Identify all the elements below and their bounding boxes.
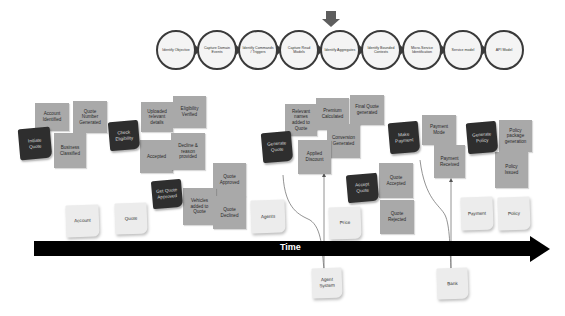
command-note[interactable]: Check Eligibility (108, 120, 140, 152)
event-note[interactable]: Quote Approved (213, 163, 246, 196)
event-note[interactable]: Payment Mode (422, 115, 456, 145)
aggregate-note[interactable]: Payment (460, 196, 493, 230)
timeline-arrow-icon (530, 236, 550, 262)
event-note[interactable]: Eligibility Verified (173, 96, 206, 128)
command-note[interactable]: Accept Quote (346, 173, 379, 204)
event-note[interactable]: Quote Accepted (379, 163, 413, 198)
command-note[interactable]: Make Payment (388, 121, 421, 154)
external-system-note[interactable]: Bank (436, 267, 468, 299)
event-note[interactable]: Policy Issued (495, 152, 528, 188)
command-note[interactable]: Get Quote Approved (151, 179, 183, 210)
event-note[interactable]: Final Quote generated (350, 95, 384, 125)
aggregate-note[interactable]: Agents (250, 199, 285, 233)
event-note[interactable]: Conversion Generated (327, 124, 360, 158)
event-note[interactable]: Quote Rejected (380, 200, 414, 234)
event-note[interactable]: Quote Number Generated (73, 101, 107, 133)
command-note[interactable]: Generate Quote (261, 131, 294, 164)
event-note[interactable]: Business Classified (54, 133, 86, 168)
event-note[interactable]: Payment Received (434, 145, 465, 178)
event-note[interactable]: Uploaded relevant details (141, 102, 173, 132)
timeline-label: Time (280, 242, 301, 252)
event-note[interactable]: Decline & reason provided (171, 133, 205, 170)
aggregate-note[interactable]: Account (65, 204, 99, 237)
aggregate-note[interactable]: Price (328, 206, 361, 239)
aggregate-note[interactable]: Quote (114, 202, 147, 234)
command-note[interactable]: Generate Policy (466, 121, 499, 154)
external-system-note[interactable]: Agent System (311, 267, 342, 298)
event-note[interactable]: Applied Discount (298, 140, 331, 174)
event-note[interactable]: Vehicles added to Quote (183, 188, 216, 225)
aggregate-note[interactable]: Policy (497, 196, 530, 230)
command-note[interactable]: Initiate Quote (18, 127, 53, 161)
event-note[interactable]: Accepted (140, 140, 173, 173)
event-note[interactable]: Policy package generation (499, 120, 532, 152)
event-note[interactable]: Quote Declined (213, 196, 246, 229)
